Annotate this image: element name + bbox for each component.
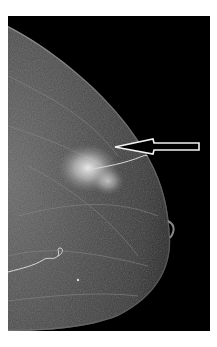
mammogram-graphic [8, 16, 210, 331]
caption-fragment [8, 0, 208, 6]
calcification [77, 279, 79, 281]
mammogram-image [8, 16, 210, 331]
